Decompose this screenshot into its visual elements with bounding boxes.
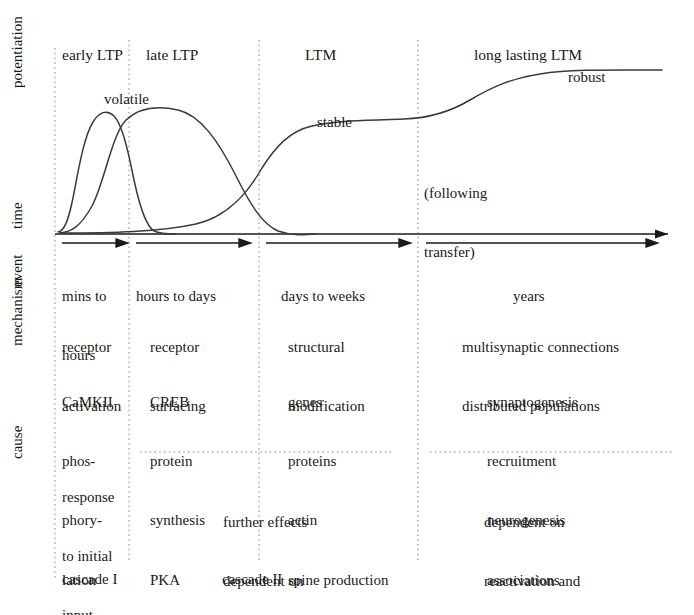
duration-arrow-late-ltp: [136, 239, 251, 247]
duration-arrow-early-ltp: [62, 239, 128, 247]
curve-label-volatile: volatile: [104, 90, 149, 108]
row-label-mechanism: mechanism: [8, 269, 26, 355]
curve-late-ltp-volatile: [60, 108, 316, 235]
mechanism-cell-line: genes: [288, 393, 388, 413]
phase-duration-arrows: [62, 239, 658, 247]
curve-ltm-stable-robust: [60, 70, 662, 233]
annotation-line-2: transfer): [424, 243, 487, 263]
phase-title-long-lasting-ltm: long lasting LTM: [474, 46, 582, 65]
cause-cell-long-lasting-ltm: dependent on reactivation and recombinat…: [484, 473, 580, 615]
curve-label-robust: robust: [568, 68, 606, 86]
cascade-label-two: cascade II: [222, 570, 282, 588]
mechanism-cell-line: PKA: [150, 571, 205, 591]
cause-cell-middle: further effects dependent on activity: [223, 473, 307, 615]
mechanism-cell-line: CREB: [150, 393, 205, 413]
row-label-time: time: [8, 192, 26, 240]
mechanism-cell-line: protein: [150, 452, 205, 472]
cause-cell-early-ltp: response to initial input procedure elic…: [62, 448, 122, 615]
annotation-following-transfer: (following transfer): [424, 145, 487, 301]
axis-label-potentiation: potentiation: [8, 0, 26, 108]
mechanism-cell-line: proteins: [288, 452, 388, 472]
cascade-label-one: cascade I: [62, 570, 117, 588]
duration-arrow-ltm: [266, 239, 411, 247]
curve-label-stable: stable: [317, 113, 352, 131]
cause-cell-line: response: [62, 488, 122, 508]
figure-canvas: potentiation time event mechanism cause …: [0, 0, 694, 615]
curve-early-ltp: [58, 112, 176, 234]
cause-cell-line: reactivation and: [484, 572, 580, 592]
mechanism-cell-late-ltp: CREB protein synthesis PKA: [150, 353, 205, 615]
cause-cell-line: input: [62, 606, 122, 615]
mechanism-cell-line: recruitment: [487, 452, 578, 472]
phase-title-early-ltp: early LTP: [62, 46, 123, 65]
mechanism-cell-line: synaptogenesis: [487, 393, 578, 413]
annotation-line-1: (following: [424, 184, 487, 204]
phase-title-ltm: LTM: [305, 46, 336, 65]
cause-cell-line: dependent on: [484, 513, 580, 533]
cause-cell-line: to initial: [62, 547, 122, 567]
phase-title-late-ltp: late LTP: [146, 46, 198, 65]
cause-cell-line: further effects: [223, 513, 307, 533]
time-axis-arrowhead: [655, 230, 668, 239]
row-label-cause: cause: [8, 414, 26, 470]
mechanism-cell-line: synthesis: [150, 511, 205, 531]
mechanism-cell-line: CaMKII: [62, 393, 113, 413]
